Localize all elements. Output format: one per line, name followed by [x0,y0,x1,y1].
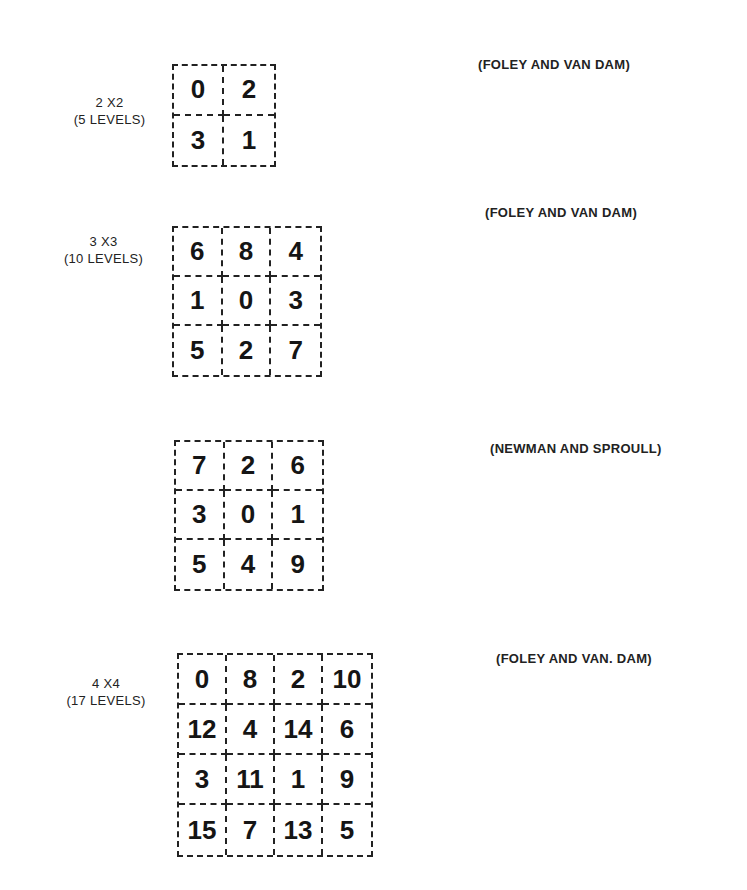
matrix-cell: 6 [323,705,371,755]
label-size: 3 X3 [40,233,167,250]
matrix-cell: 0 [174,66,224,116]
matrix-cell: 7 [271,326,320,375]
matrix-cell: 1 [224,116,274,166]
matrix-cell: 15 [179,805,227,855]
matrix-cell: 2 [224,66,274,116]
citation: (FOLEY AND VAN. DAM) [496,651,652,666]
label-size: 4 X4 [40,675,172,692]
label-levels: (10 LEVELS) [40,250,167,267]
label-levels: (5 LEVELS) [52,111,167,128]
matrix-cell: 7 [176,442,225,491]
matrix-cell: 9 [323,755,371,805]
matrix-cell: 13 [275,805,323,855]
matrix-cell: 12 [179,705,227,755]
matrix-cell: 14 [275,705,323,755]
dither-matrix-3x3-foley: 6 8 4 1 0 3 5 2 7 [172,226,322,377]
matrix-cell: 2 [225,442,274,491]
dither-matrix-2x2: 0 2 3 1 [172,64,276,167]
matrix-cell: 0 [179,655,227,705]
matrix-cell: 10 [323,655,371,705]
dither-3x3-label: 3 X3 (10 LEVELS) [40,233,167,267]
dither-4x4-label: 4 X4 (17 LEVELS) [40,675,172,709]
matrix-cell: 4 [271,228,320,277]
matrix-cell: 9 [273,540,322,589]
matrix-cell: 8 [227,655,275,705]
citation: (NEWMAN AND SPROULL) [490,441,662,456]
matrix-cell: 2 [223,326,272,375]
matrix-cell: 1 [275,755,323,805]
matrix-cell: 3 [174,116,224,166]
label-levels: (17 LEVELS) [40,692,172,709]
matrix-cell: 6 [174,228,223,277]
matrix-cell: 1 [174,277,223,326]
matrix-cell: 8 [223,228,272,277]
matrix-cell: 4 [225,540,274,589]
citation: (FOLEY AND VAN DAM) [478,57,630,72]
matrix-cell: 4 [227,705,275,755]
matrix-cell: 5 [323,805,371,855]
dither-matrix-4x4: 0 8 2 10 12 4 14 6 3 11 1 9 15 7 13 5 [177,653,373,857]
matrix-cell: 2 [275,655,323,705]
matrix-cell: 0 [225,491,274,540]
label-size: 2 X2 [52,94,167,111]
dither-2x2-label: 2 X2 (5 LEVELS) [52,94,167,128]
dither-matrix-3x3-newman: 7 2 6 3 0 1 5 4 9 [174,440,324,591]
matrix-cell: 0 [223,277,272,326]
matrix-cell: 1 [273,491,322,540]
matrix-cell: 5 [174,326,223,375]
matrix-cell: 5 [176,540,225,589]
matrix-cell: 3 [271,277,320,326]
matrix-cell: 11 [227,755,275,805]
matrix-cell: 6 [273,442,322,491]
citation: (FOLEY AND VAN DAM) [485,205,637,220]
matrix-cell: 3 [179,755,227,805]
matrix-cell: 7 [227,805,275,855]
matrix-cell: 3 [176,491,225,540]
